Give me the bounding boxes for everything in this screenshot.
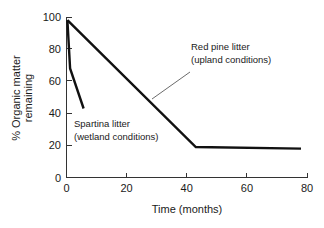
- annotation-red-pine-line2: (upland conditions): [191, 54, 271, 65]
- y-axis-title-line2: remaining: [22, 74, 34, 122]
- chart-figure: 0 20 40 60 80 100 0 20 40 60 80 Time (mo…: [0, 0, 324, 228]
- y-tick-label-40: 40: [49, 107, 61, 119]
- x-axis-title: Time (months): [152, 203, 223, 215]
- annotation-spartina-line1: Spartina litter: [74, 118, 130, 129]
- y-axis-title-line1: % Organic matter: [10, 55, 22, 141]
- y-tick-label-60: 60: [49, 75, 61, 87]
- annotation-spartina-line2: (wetland conditions): [74, 131, 159, 142]
- x-tick-label-80: 80: [301, 182, 313, 194]
- y-tick-label-20: 20: [49, 139, 61, 151]
- y-tick-label-0: 0: [55, 172, 61, 184]
- annotation-red-pine-line1: Red pine litter: [191, 41, 250, 52]
- chart-canvas: 0 20 40 60 80 100 0 20 40 60 80 Time (mo…: [0, 0, 324, 228]
- x-tick-label-0: 0: [63, 182, 69, 194]
- y-tick-label-100: 100: [43, 11, 61, 23]
- x-tick-label-20: 20: [120, 182, 132, 194]
- x-tick-label-60: 60: [241, 182, 253, 194]
- x-tick-label-40: 40: [181, 182, 193, 194]
- y-tick-label-80: 80: [49, 43, 61, 55]
